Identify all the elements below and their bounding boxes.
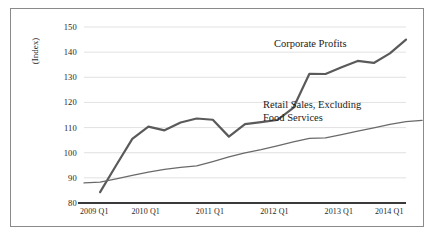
annotation-line: Retail Sales, Excluding: [263, 99, 361, 110]
y-tick-label: 100: [53, 148, 77, 158]
x-tick-label: 2010 Q1: [131, 207, 159, 216]
x-tick-label: 2013 Q1: [325, 207, 353, 216]
x-tick-label: 2011 Q1: [196, 207, 224, 216]
y-tick-label: 120: [53, 97, 77, 107]
y-tick-label: 90: [53, 173, 77, 183]
series-lines: [84, 40, 422, 193]
retail-sales-label: Retail Sales, ExcludingFood Services: [263, 99, 361, 124]
y-axis-title: (Index): [30, 16, 40, 86]
y-tick-label: 110: [53, 123, 77, 133]
x-tick-label: 2014 Q1: [375, 207, 403, 216]
y-tick-label: 130: [53, 72, 77, 82]
x-tick-label: 2012 Q1: [260, 207, 288, 216]
y-tick-label: 80: [53, 198, 77, 208]
y-tick-label: 140: [53, 47, 77, 57]
corporate-profits-label: Corporate Profits: [274, 38, 347, 51]
x-tick-label: 2009 Q1: [80, 207, 108, 216]
annotation-line: Corporate Profits: [274, 38, 347, 49]
y-tick-label: 150: [53, 22, 77, 32]
annotation-line: Food Services: [263, 112, 323, 123]
